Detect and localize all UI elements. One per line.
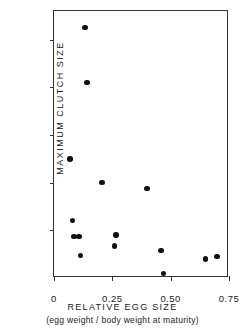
- data-point: [203, 256, 208, 261]
- x-axis-tick-mark: [229, 276, 230, 281]
- x-axis-tick-mark: [171, 276, 172, 281]
- data-point: [113, 232, 118, 237]
- x-axis-tick-mark: [112, 276, 113, 281]
- y-axis-tick-mark: [50, 183, 55, 184]
- x-axis-title: RELATIVE EGG SIZE: [0, 302, 245, 312]
- data-point: [214, 254, 219, 259]
- y-axis-title: MAXIMUM CLUTCH SIZE: [55, 8, 65, 208]
- data-points-layer: [54, 11, 227, 276]
- data-point: [67, 156, 72, 161]
- data-point: [112, 243, 117, 248]
- data-point: [161, 271, 166, 276]
- data-point: [78, 253, 83, 258]
- data-point: [70, 218, 75, 223]
- y-axis-tick-mark: [50, 40, 55, 41]
- plot-area: 20406080100 00.250.500.75 MAXIMUM CLUTCH…: [53, 10, 228, 277]
- x-axis-subtitle: (egg weight / body weight at maturity): [0, 315, 245, 325]
- data-point: [158, 248, 163, 253]
- data-point: [84, 80, 89, 85]
- y-axis-tick-mark: [50, 87, 55, 88]
- x-axis-tick-mark: [54, 276, 55, 281]
- y-axis-tick-mark: [50, 135, 55, 136]
- scatter-plot-figure: 20406080100 00.250.500.75 MAXIMUM CLUTCH…: [0, 0, 245, 336]
- data-point: [144, 186, 149, 191]
- data-point: [76, 234, 81, 239]
- x-axis-title-group: RELATIVE EGG SIZE (egg weight / body wei…: [0, 302, 245, 325]
- data-point: [82, 25, 87, 30]
- y-axis-tick-mark: [50, 230, 55, 231]
- data-point: [99, 180, 104, 185]
